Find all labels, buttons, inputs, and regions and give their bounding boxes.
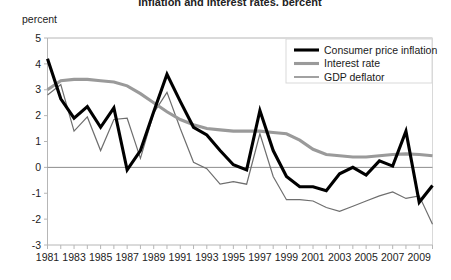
y-tick-label: 5 [35, 32, 41, 44]
x-tick-label: 1987 [115, 251, 139, 263]
chart-svg: 543210-1-2-3 198119831985198719891991199… [0, 0, 451, 280]
y-axis-ticks: 543210-1-2-3 [32, 32, 48, 251]
chart-legend: Consumer price inflationInterest rateGDP… [286, 39, 437, 83]
x-tick-label: 1991 [169, 251, 193, 263]
y-tick-label: -2 [32, 213, 41, 225]
x-tick-label: 2001 [301, 251, 325, 263]
y-tick-label: 3 [35, 83, 41, 95]
y-tick-label: 0 [35, 161, 41, 173]
y-tick-label: 1 [35, 135, 41, 147]
legend-label-0: Consumer price inflation [324, 44, 437, 56]
x-tick-label: 1993 [195, 251, 219, 263]
legend-label-1: Interest rate [324, 57, 380, 69]
x-tick-label: 2005 [354, 251, 378, 263]
series-line-gdp-deflator [48, 85, 433, 225]
y-tick-label: 4 [35, 58, 41, 70]
x-tick-label: 2007 [381, 251, 405, 263]
x-tick-label: 1985 [89, 251, 113, 263]
x-tick-label: 1995 [222, 251, 246, 263]
x-tick-label: 2009 [408, 251, 432, 263]
y-tick-label: -3 [32, 239, 41, 251]
x-tick-label: 1989 [142, 251, 166, 263]
x-tick-label: 1981 [36, 251, 60, 263]
y-tick-label: 2 [35, 109, 41, 121]
x-tick-label: 1983 [62, 251, 86, 263]
x-axis-ticks: 1981198319851987198919911993199519971999… [36, 245, 433, 263]
data-series-group [48, 59, 433, 225]
chart-container: Inflation and interest rates, percent pe… [0, 0, 451, 280]
legend-label-2: GDP deflator [324, 71, 385, 83]
x-tick-label: 1999 [275, 251, 299, 263]
x-tick-label: 2003 [328, 251, 352, 263]
x-tick-label: 1997 [248, 251, 272, 263]
y-tick-label: -1 [32, 187, 41, 199]
